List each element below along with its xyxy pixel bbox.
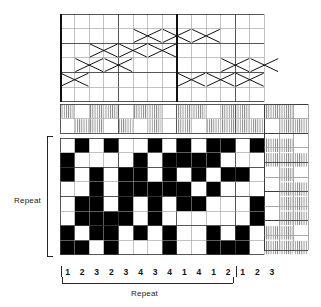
treadling-hatched-cell bbox=[280, 168, 293, 181]
drawdown-cell-empty bbox=[75, 182, 90, 197]
weaving-draft-figure bbox=[0, 0, 321, 307]
drawdown-cell-filled bbox=[75, 211, 90, 226]
treadling-hatched-cell bbox=[294, 119, 307, 132]
drawdown-cell-filled bbox=[60, 226, 75, 241]
drawdown-cell-empty bbox=[206, 167, 221, 182]
drawdown-cell-empty bbox=[250, 226, 265, 241]
drawdown-cell-filled bbox=[89, 196, 104, 211]
drawdown-cell-filled bbox=[104, 138, 119, 153]
drawdown-cell-filled bbox=[191, 153, 206, 168]
drawdown-cell-empty bbox=[118, 226, 133, 241]
treadling-hatched-cell bbox=[294, 241, 307, 254]
thread-number-repeat: 4 bbox=[192, 267, 206, 277]
drawdown-cell-empty bbox=[177, 167, 192, 182]
tieup-hatched-cell bbox=[221, 105, 234, 118]
drawdown-cell-filled bbox=[60, 240, 75, 255]
drawdown-cell-empty bbox=[118, 138, 133, 153]
drawdown-cell-filled bbox=[60, 167, 75, 182]
drawdown-cell-filled bbox=[191, 167, 206, 182]
drawdown-cell-filled bbox=[148, 138, 163, 153]
drawdown-cell-filled bbox=[206, 182, 221, 197]
treadling-hatched-cell bbox=[265, 139, 278, 152]
tieup-hatched-cell bbox=[148, 105, 161, 118]
drawdown-cell-empty bbox=[235, 153, 250, 168]
drawdown-cell-filled bbox=[191, 196, 206, 211]
thread-number-repeat: 4 bbox=[134, 267, 148, 277]
drawdown-cell-filled bbox=[104, 240, 119, 255]
tieup-hatched-cell bbox=[61, 105, 74, 118]
drawdown-cell-filled bbox=[177, 196, 192, 211]
drawdown-cell-filled bbox=[250, 211, 265, 226]
drawdown-cell-empty bbox=[177, 226, 192, 241]
drawdown-cell-filled bbox=[75, 196, 90, 211]
drawdown-cell-filled bbox=[89, 167, 104, 182]
drawdown-cell-empty bbox=[60, 182, 75, 197]
drawdown-cell-filled bbox=[148, 211, 163, 226]
drawdown-cell-empty bbox=[206, 196, 221, 211]
tieup-hatched-cell bbox=[148, 119, 161, 132]
drawdown-cell-filled bbox=[60, 153, 75, 168]
drawdown-cell-empty bbox=[60, 196, 75, 211]
treadling-hatched-cell bbox=[280, 241, 293, 254]
drawdown-cell-empty bbox=[206, 211, 221, 226]
treadling-hatched-cell bbox=[280, 182, 293, 195]
thread-number-repeat: 1 bbox=[61, 267, 75, 277]
drawdown-cell-filled bbox=[162, 226, 177, 241]
drawdown-cell-empty bbox=[104, 167, 119, 182]
treadling-hatched-cell bbox=[280, 139, 293, 152]
drawdown-cell-filled bbox=[118, 196, 133, 211]
tieup-hatched-cell bbox=[250, 119, 263, 132]
drawdown-cell-empty bbox=[118, 153, 133, 168]
drawdown-cell-empty bbox=[221, 182, 236, 197]
drawdown-cell-empty bbox=[133, 240, 148, 255]
drawdown-cell-filled bbox=[206, 226, 221, 241]
treadling-hatched-cell bbox=[294, 153, 307, 166]
tieup-hatched-cell bbox=[90, 105, 103, 118]
drawdown-cell-empty bbox=[133, 138, 148, 153]
drawdown-cell-filled bbox=[206, 153, 221, 168]
treadling-hatched-cell bbox=[265, 226, 278, 239]
thread-number-repeat: 3 bbox=[119, 267, 133, 277]
tieup-hatched-cell bbox=[236, 105, 249, 118]
drawdown-cell-empty bbox=[221, 153, 236, 168]
drawdown-cell-filled bbox=[133, 153, 148, 168]
drawdown-cell-filled bbox=[89, 182, 104, 197]
drawdown-cell-filled bbox=[162, 182, 177, 197]
drawdown-cell-empty bbox=[191, 211, 206, 226]
drawdown-cell-filled bbox=[250, 138, 265, 153]
drawdown-cell-filled bbox=[177, 182, 192, 197]
tieup-hatched-cell bbox=[177, 119, 190, 132]
thread-number-repeat: 1 bbox=[207, 267, 221, 277]
drawdown-cell-filled bbox=[162, 240, 177, 255]
thread-number-repeat: 2 bbox=[75, 267, 89, 277]
tieup-hatched-cell bbox=[134, 105, 147, 118]
tieup-section bbox=[60, 104, 264, 133]
tieup-hatched-cell bbox=[207, 119, 220, 132]
drawdown-cell-filled bbox=[206, 138, 221, 153]
treadling-hatched-cell bbox=[280, 105, 293, 118]
drawdown-cell-empty bbox=[89, 138, 104, 153]
drawdown-cell-filled bbox=[118, 211, 133, 226]
drawdown-cell-empty bbox=[250, 167, 265, 182]
drawdown-cell-empty bbox=[133, 196, 148, 211]
drawdown-cell-empty bbox=[191, 226, 206, 241]
drawdown-cell-empty bbox=[104, 196, 119, 211]
treadling-hatched-cell bbox=[280, 226, 293, 239]
thread-number-repeat: 2 bbox=[104, 267, 118, 277]
tieup-hatched-cell bbox=[119, 119, 132, 132]
treadling-hatched-cell bbox=[280, 119, 293, 132]
drawdown-cell-filled bbox=[133, 226, 148, 241]
drawdown-cell-empty bbox=[133, 211, 148, 226]
drawdown-cell-empty bbox=[60, 138, 75, 153]
drawdown-cell-filled bbox=[221, 167, 236, 182]
thread-number-repeat: 1 bbox=[177, 267, 191, 277]
drawdown-cell-empty bbox=[191, 240, 206, 255]
drawdown-cell-empty bbox=[148, 240, 163, 255]
drawdown-cell-filled bbox=[250, 196, 265, 211]
tieup-hatched-cell bbox=[236, 119, 249, 132]
thread-number-repeat: 3 bbox=[90, 267, 104, 277]
treadling-hatched-cell bbox=[265, 105, 278, 118]
drawdown-cell-filled bbox=[177, 138, 192, 153]
drawdown-cell-filled bbox=[133, 167, 148, 182]
treadling-hatched-cell bbox=[280, 197, 293, 210]
